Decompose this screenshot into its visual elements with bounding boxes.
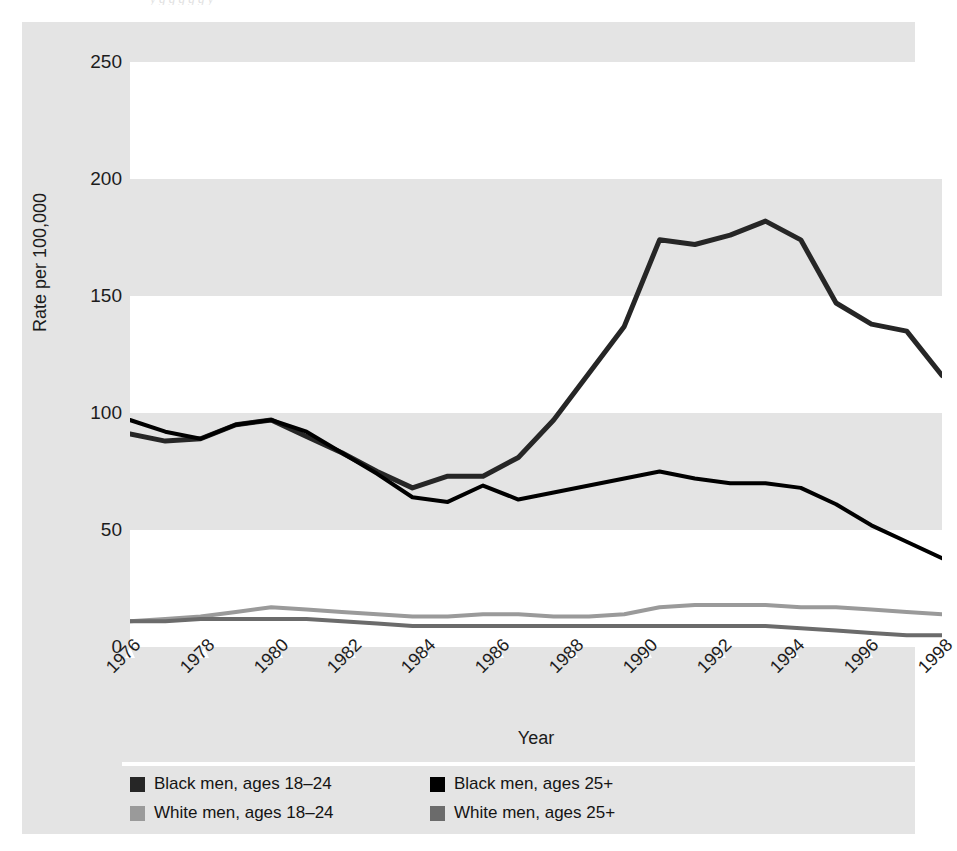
clipped-caption-bleed: y g g g g g y [150,0,670,5]
y-tick-label: 150 [78,285,122,307]
y-axis-title: Rate per 100,000 [30,133,51,393]
y-tick-label: 100 [78,402,122,424]
y-tick-label: 50 [78,519,122,541]
legend-label: Black men, ages 18–24 [154,774,332,794]
chart-legend: Black men, ages 18–24Black men, ages 25+… [130,774,920,836]
legend-divider [122,762,922,766]
plot-area [130,62,942,647]
legend-item[interactable]: Black men, ages 25+ [430,774,613,794]
legend-item[interactable]: White men, ages 18–24 [130,803,334,823]
y-axis-ticks: 050100150200250 [72,62,122,647]
legend-item[interactable]: Black men, ages 18–24 [130,774,332,794]
legend-swatch [130,806,145,821]
legend-label: White men, ages 18–24 [154,803,334,823]
y-tick-label: 200 [78,168,122,190]
series-lines [130,62,942,647]
legend-swatch [430,777,445,792]
series-line-0 [130,221,942,488]
legend-label: Black men, ages 25+ [454,774,613,794]
legend-swatch [130,777,145,792]
legend-item[interactable]: White men, ages 25+ [430,803,615,823]
x-axis-title: Year [130,728,942,749]
series-line-3 [130,619,942,635]
legend-swatch [430,806,445,821]
x-axis-ticks: 1976197819801982198419861988199019921994… [130,647,942,727]
chart-panel: Rate per 100,000 050100150200250 1976197… [22,22,915,834]
legend-label: White men, ages 25+ [454,803,615,823]
y-tick-label: 250 [78,51,122,73]
